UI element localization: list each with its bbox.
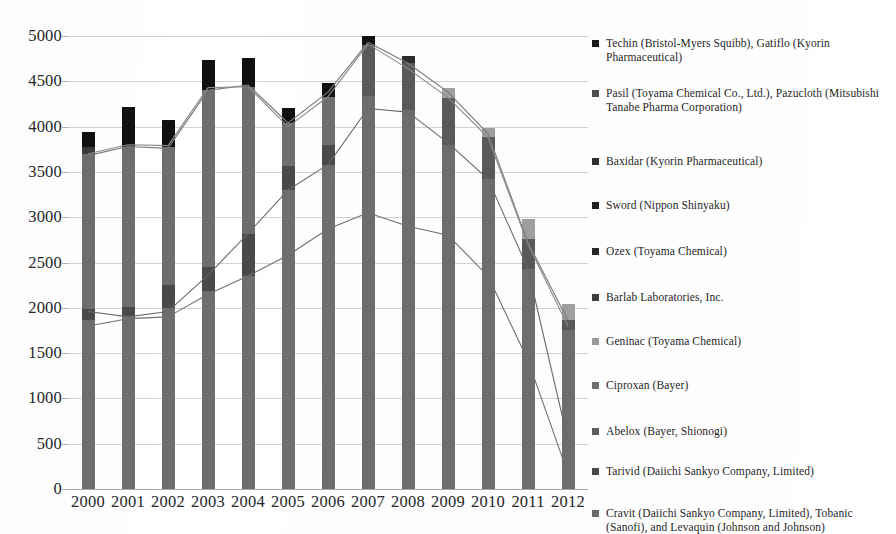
bar-segment	[122, 317, 135, 489]
legend: Techin (Bristol-Myers Squibb), Gatiflo (…	[592, 28, 892, 518]
bar-segment	[562, 304, 575, 320]
y-axis-tick-mark	[62, 127, 68, 128]
legend-label: Barlab Laboratories, Inc.	[606, 290, 892, 304]
bar-segment	[162, 120, 175, 147]
bar-segment	[242, 234, 255, 277]
y-axis-tick-label: 1500	[6, 345, 62, 362]
y-axis: 5000450040003500300025002000150010005000	[0, 36, 62, 489]
legend-item[interactable]: Ozex (Toyama Chemical)	[592, 244, 892, 258]
bar-segment	[562, 330, 575, 489]
legend-item[interactable]: Techin (Bristol-Myers Squibb), Gatiflo (…	[592, 36, 892, 64]
legend-item[interactable]: Abelox (Bayer, Shionogi)	[592, 424, 892, 438]
bar[interactable]	[122, 36, 135, 489]
bar-segment	[82, 309, 95, 320]
bar-segment	[322, 145, 335, 165]
bar-segment	[522, 239, 535, 269]
bar-segment	[442, 88, 455, 98]
legend-swatch-icon	[592, 202, 599, 209]
bar[interactable]	[482, 36, 495, 489]
legend-label: Geninac (Toyama Chemical)	[606, 334, 892, 348]
y-axis-tick-mark	[62, 398, 68, 399]
bar-segment	[402, 63, 415, 110]
y-axis-tick-mark	[62, 308, 68, 309]
bar-segment	[122, 307, 135, 317]
bar[interactable]	[82, 36, 95, 489]
legend-label: Techin (Bristol-Myers Squibb), Gatiflo (…	[606, 36, 892, 64]
bar[interactable]	[562, 36, 575, 489]
bar-segment	[162, 147, 175, 285]
legend-swatch-icon	[592, 468, 599, 475]
legend-label: Tarivid (Daiichi Sankyo Company, Limited…	[606, 464, 892, 478]
bar-segment	[82, 132, 95, 147]
legend-label: Cravit (Daiichi Sankyo Company, Limited)…	[606, 506, 892, 534]
legend-swatch-icon	[592, 294, 599, 301]
bar-segment	[362, 96, 375, 489]
y-axis-tick-mark	[62, 489, 68, 490]
y-axis-tick-label: 1000	[6, 390, 62, 407]
y-axis-tick-label: 4500	[6, 73, 62, 90]
legend-swatch-icon	[592, 248, 599, 255]
plot-area	[68, 36, 588, 489]
bar-segment	[82, 147, 95, 153]
bar-segment	[122, 107, 135, 147]
legend-item[interactable]: Pasil (Toyama Chemical Co., Ltd.), Pazuc…	[592, 86, 892, 114]
legend-item[interactable]: Barlab Laboratories, Inc.	[592, 290, 892, 304]
legend-item[interactable]: Geninac (Toyama Chemical)	[592, 334, 892, 348]
bar-segment	[402, 56, 415, 63]
bar[interactable]	[242, 36, 255, 489]
bar[interactable]	[322, 36, 335, 489]
bar-segment	[482, 137, 495, 179]
legend-item[interactable]: Baxidar (Kyorin Pharmaceutical)	[592, 154, 892, 168]
y-axis-tick-label: 0	[6, 481, 62, 498]
legend-item[interactable]: Tarivid (Daiichi Sankyo Company, Limited…	[592, 464, 892, 478]
bar-segment	[242, 276, 255, 489]
legend-swatch-icon	[592, 40, 599, 47]
legend-swatch-icon	[592, 158, 599, 165]
bar[interactable]	[362, 36, 375, 489]
legend-swatch-icon	[592, 90, 599, 97]
bar-segment	[162, 285, 175, 308]
y-axis-tick-mark	[62, 353, 68, 354]
bar-segment	[242, 87, 255, 234]
bar-segment	[202, 267, 215, 291]
legend-label: Pasil (Toyama Chemical Co., Ltd.), Pazuc…	[606, 86, 892, 114]
bar-segment	[562, 320, 575, 329]
y-axis-tick-label: 2500	[6, 255, 62, 272]
bar-segment	[522, 269, 535, 489]
y-axis-tick-mark	[62, 444, 68, 445]
legend-item[interactable]: Ciproxan (Bayer)	[592, 378, 892, 392]
bar[interactable]	[522, 36, 535, 489]
bar[interactable]	[162, 36, 175, 489]
bar-segment	[122, 147, 135, 307]
bar-segment	[282, 123, 295, 166]
legend-swatch-icon	[592, 382, 599, 389]
bar-segment	[82, 154, 95, 309]
bar-segment	[162, 308, 175, 489]
legend-label: Abelox (Bayer, Shionogi)	[606, 424, 892, 438]
bar-segment	[522, 219, 535, 239]
bar-segment	[322, 83, 335, 97]
y-axis-tick-label: 3500	[6, 164, 62, 181]
y-axis-tick-label: 5000	[6, 28, 62, 45]
y-axis-tick-mark	[62, 172, 68, 173]
bar[interactable]	[202, 36, 215, 489]
y-axis-tick-mark	[62, 81, 68, 82]
legend-item[interactable]: Cravit (Daiichi Sankyo Company, Limited)…	[592, 506, 892, 534]
x-axis-tick-label: 2012	[545, 494, 591, 511]
bar[interactable]	[402, 36, 415, 489]
y-axis-tick-label: 500	[6, 436, 62, 453]
legend-swatch-icon	[592, 428, 599, 435]
bar-segment	[282, 190, 295, 489]
legend-label: Sword (Nippon Shinyaku)	[606, 198, 892, 212]
legend-item[interactable]: Sword (Nippon Shinyaku)	[592, 198, 892, 212]
bar-segment	[202, 90, 215, 267]
bar-segment	[442, 145, 455, 489]
gridline	[68, 489, 588, 490]
bar-segment	[402, 110, 415, 489]
bar-segment	[322, 97, 335, 145]
bar-segment	[362, 36, 375, 45]
bar-segment	[202, 291, 215, 489]
legend-swatch-icon	[592, 510, 599, 517]
bar[interactable]	[282, 36, 295, 489]
bar[interactable]	[442, 36, 455, 489]
